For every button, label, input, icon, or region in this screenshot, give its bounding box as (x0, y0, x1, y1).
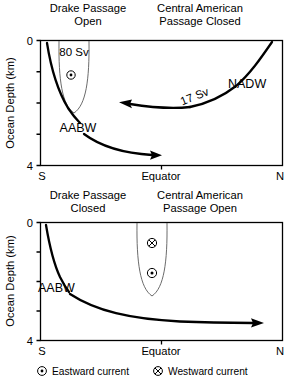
bottom-xtick-label-equator: Equator (141, 345, 180, 357)
eastward-current-symbol-bottom (147, 268, 156, 277)
drake-transport-annotation: 80 Sv (59, 46, 89, 58)
westward-current-symbol (147, 238, 156, 247)
top-y-axis-label: Ocean Depth (km) (4, 57, 16, 149)
legend-item-westward: Westward current (154, 366, 248, 377)
central-american-passage-gyre-outline (137, 223, 167, 296)
top-ytick-label-4: 4 (27, 160, 33, 172)
legend-label-westward: Westward current (168, 366, 248, 377)
ocean-circulation-figure: Drake Passage Open Central American Pass… (0, 0, 297, 385)
bottom-ytick-label-0: 0 (27, 217, 33, 229)
legend-label-eastward: Eastward current (52, 366, 129, 377)
aabw-label-bottom: AABW (38, 281, 75, 295)
bottom-panel-title-right-line2: Passage Open (163, 202, 237, 214)
nadw-label: NADW (228, 77, 266, 91)
westward-legend-icon (154, 367, 163, 376)
top-panel-title-right-line1: Central American (157, 2, 243, 14)
bottom-panel-title-left-line1: Drake Passage (50, 189, 127, 201)
figure-canvas: Drake Passage Open Central American Pass… (0, 0, 297, 385)
top-xtick-label-north: N (276, 170, 284, 182)
nadw-transport-annotation: 17 Sv (179, 85, 211, 107)
aabw-flow-arrow-top (84, 134, 152, 155)
legend: Eastward current Westward current (38, 366, 248, 377)
top-panel-title-left-line2: Open (74, 15, 101, 27)
aabw-label-top: AABW (60, 121, 97, 135)
eastward-current-symbol (67, 71, 75, 79)
eastward-legend-icon (38, 367, 47, 376)
legend-item-eastward: Eastward current (38, 366, 130, 377)
panel-top: Drake Passage Open Central American Pass… (4, 2, 284, 182)
bottom-y-axis-label: Ocean Depth (km) (4, 235, 16, 327)
top-plot-frame (41, 41, 283, 166)
top-xtick-label-south: S (38, 170, 45, 182)
top-panel-title-right-line2: Passage Closed (159, 15, 240, 27)
top-xtick-label-equator: Equator (141, 170, 180, 182)
bottom-panel-title-right-line1: Central American (157, 189, 243, 201)
bottom-xtick-label-south: S (38, 345, 45, 357)
panel-bottom: Drake Passage Closed Central American Pa… (4, 189, 284, 357)
top-panel-title-left-line1: Drake Passage (50, 2, 127, 14)
aabw-flow-arrow-bottom (70, 294, 253, 323)
bottom-xtick-label-north: N (276, 345, 284, 357)
top-ytick-label-0: 0 (27, 35, 33, 47)
bottom-panel-title-left-line2: Closed (71, 202, 106, 214)
bottom-ytick-label-4: 4 (27, 335, 33, 347)
